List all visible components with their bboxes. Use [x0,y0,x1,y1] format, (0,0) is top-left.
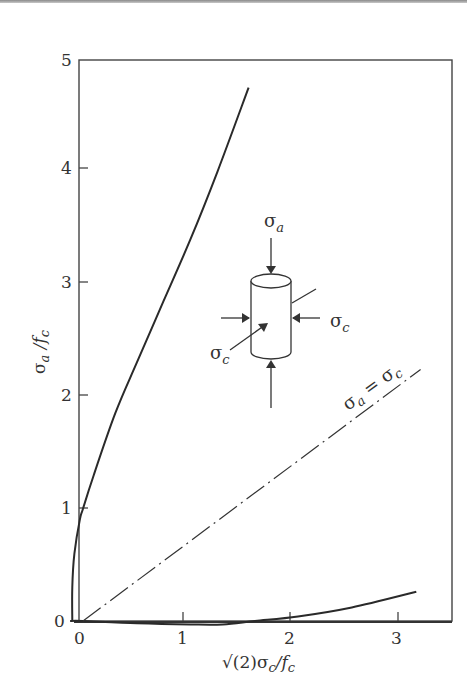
y-tick-5: 5 [61,50,72,70]
plot-frame [79,60,452,621]
x-axis-label: √(2)σc/fc [222,652,296,675]
x-tick-0: 0 [74,628,85,648]
y-ticks [79,168,88,508]
chart: 0 1 2 3 4 5 0 1 2 3 √(2)σc/fc σa /fc σa … [0,0,467,680]
hydrostatic-dashdot-line [83,369,421,621]
inset-lateral-right-label: σc [330,310,350,335]
x-tick-labels: 0 1 2 3 [74,628,402,648]
x-tick-1: 1 [177,628,188,648]
y-tick-1: 1 [61,498,72,518]
y-tick-labels: 0 1 2 3 4 5 [54,50,72,631]
y-tick-0: 0 [54,611,65,631]
inset-lateral-front-label: σc [210,342,230,367]
x-tick-3: 3 [391,628,402,648]
lower-failure-curve [70,592,416,625]
inset-axial-label: σa [264,210,284,235]
y-axis-label: σa /fc [29,329,52,374]
y-tick-2: 2 [61,385,72,405]
x-tick-2: 2 [284,628,295,648]
y-tick-4: 4 [61,158,72,178]
triaxial-cylinder-inset [221,238,320,408]
y-tick-3: 3 [61,272,72,292]
